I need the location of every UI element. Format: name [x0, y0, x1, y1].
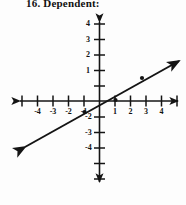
x-tick-label: -2 — [65, 108, 72, 116]
graph-figure: 16. Dependent: — [0, 0, 186, 205]
y-tick-label: -4 — [85, 144, 92, 152]
y-tick-label: -3 — [85, 129, 92, 137]
y-tick-label: 4 — [86, 20, 90, 28]
x-tick-label: 1 — [113, 108, 117, 116]
x-tick-label: 4 — [160, 108, 164, 116]
y-tick-label: -2 — [85, 113, 92, 121]
x-tick-label: 3 — [144, 108, 148, 116]
x-tick-label: 2 — [129, 108, 133, 116]
plotted-line — [25, 61, 179, 147]
data-point — [113, 98, 117, 102]
y-axis — [94, 22, 105, 182]
coordinate-plane — [0, 0, 186, 205]
x-tick-label: -3 — [50, 108, 57, 116]
y-tick-label: 1 — [86, 67, 90, 75]
x-tick-label: -4 — [34, 108, 41, 116]
y-tick-label: 3 — [86, 36, 90, 44]
y-tick-label: 2 — [86, 51, 90, 59]
data-point — [140, 76, 144, 80]
